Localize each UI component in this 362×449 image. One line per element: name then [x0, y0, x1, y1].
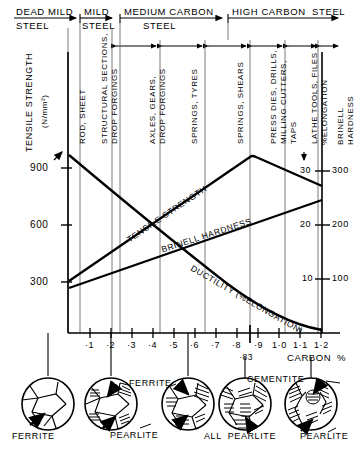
micrograph-label-cementite: CEMENTITE: [247, 374, 304, 384]
right-elong-tick-30: 30: [300, 165, 311, 175]
right-brinell-tick-100: 100: [332, 273, 349, 283]
axis-tensile-units: (N/mm²): [40, 94, 49, 128]
curve-tensile-strength: [69, 156, 322, 281]
x-tick-4: ·5: [169, 340, 178, 350]
carbon-steel-properties-figure: DEAD MILD STEEL MILD STEEL MEDIUM CARBON…: [0, 0, 362, 449]
left-tick-300: 300: [30, 276, 49, 287]
application-rod-sheet: ROD, SHEET: [78, 89, 87, 144]
axis-brinell-label: BRINELLHARDNESS: [336, 96, 356, 145]
application-press-dies-line2: MILLING CUTTERS,: [279, 60, 288, 144]
axis-tensile-title: TENSILE STRENGTH: [24, 53, 34, 152]
micrograph-label-all-pearlite: ALL PEARLITE: [204, 431, 276, 441]
application-press-dies-line1: PRESS DIES, DRILLS,: [269, 50, 278, 144]
application-axles-gears-line1: AXLES, GEARS,: [148, 76, 157, 144]
x-tick-11: 1·2: [314, 340, 329, 350]
x-tick-8: ·9: [254, 340, 263, 350]
micrograph-all-pearlite-art: [219, 378, 271, 430]
x-tick-9: 1·0: [272, 340, 287, 350]
application-structural-sections: STRUCTURAL SECTIONS,DROP FORGINGS: [100, 33, 120, 144]
application-structural-sections-line1: STRUCTURAL SECTIONS,: [100, 33, 109, 144]
application-axles-gears: AXLES, GEARS,DROP FORGINGS: [148, 68, 168, 144]
x-tick-3: ·4: [148, 340, 157, 350]
application-press-dies-line3: TAPS: [289, 121, 298, 144]
x-tick-2: ·3: [127, 340, 136, 350]
x-tick-083: ·83: [239, 352, 253, 362]
x-axis-title: CARBON: [287, 352, 331, 363]
x-tick-10: 1·1: [293, 340, 308, 350]
axis-brinell-label-line1: BRINELL: [336, 107, 345, 145]
x-tick-7: ·8: [232, 340, 241, 350]
application-springs-tyres: SPRINGS, TYRES: [190, 69, 199, 144]
x-tick-0: ·1: [85, 340, 94, 350]
left-tick-900: 900: [30, 162, 49, 173]
axis-brinell-label-line2: HARDNESS: [346, 96, 355, 145]
micrograph-label-ferrite-1: FERRITE: [12, 431, 55, 441]
left-tick-600: 600: [30, 219, 49, 230]
x-tick-5: ·6: [190, 340, 199, 350]
x-tick-6: ·7: [211, 340, 220, 350]
x-axis-unit: %: [337, 352, 346, 363]
application-press-dies: PRESS DIES, DRILLS,MILLING CUTTERS,TAPS: [269, 50, 299, 144]
application-axles-gears-line2: DROP FORGINGS: [158, 68, 167, 144]
x-tick-1: ·2: [106, 340, 115, 350]
application-lathe-tools: LATHE TOOLS, FILES: [310, 52, 319, 144]
right-elong-tick-10: 10: [302, 273, 313, 283]
right-elong-tick-20: 20: [300, 219, 311, 229]
application-structural-sections-line2: DROP FORGINGS: [110, 68, 119, 144]
right-brinell-tick-200: 200: [332, 219, 349, 229]
micrograph-label-pearlite-5: PEARLITE: [300, 431, 348, 441]
application-springs-shears: SPRINGS, SHEARS: [236, 62, 245, 144]
micrograph-ferrite-art: [22, 378, 74, 430]
micrograph-label-pearlite-2: PEARLITE: [110, 430, 158, 440]
right-brinell-tick-300: 300: [332, 165, 349, 175]
micrograph-label-ferrite-2: FERRITE: [129, 378, 172, 388]
axis-elongation-label: %ELONGATION: [320, 79, 329, 145]
